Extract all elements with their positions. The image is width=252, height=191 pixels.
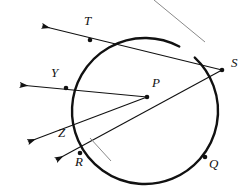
point-dot-y xyxy=(64,86,69,91)
rays-group xyxy=(20,26,222,160)
circle-arc-group xyxy=(72,38,218,184)
point-label-y: Y xyxy=(51,66,58,79)
point-label-s: S xyxy=(231,56,238,69)
point-label-q: Q xyxy=(209,157,218,170)
point-dot-p xyxy=(145,95,150,100)
point-label-r: R xyxy=(75,155,83,168)
ray-P-Y xyxy=(20,85,147,97)
ray-P-Z xyxy=(28,97,147,142)
ray-S-R xyxy=(56,70,222,160)
point-dot-t xyxy=(88,38,93,43)
point-dot-s xyxy=(220,68,225,73)
point-label-z: Z xyxy=(58,126,65,139)
point-dot-q xyxy=(203,155,208,160)
pointer-lines-group xyxy=(90,0,205,161)
geometry-figure: TSYPZRQ xyxy=(0,0,252,191)
point-label-t: T xyxy=(84,14,91,27)
pointer-to-arc-top xyxy=(154,0,205,42)
pointer-to-arc-near-R xyxy=(90,138,111,161)
point-label-p: P xyxy=(152,76,160,89)
ray-S-T xyxy=(42,26,222,70)
main-circle-arc xyxy=(72,38,218,184)
